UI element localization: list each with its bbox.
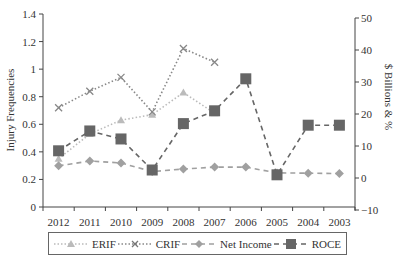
axes: 00.20.40.60.811.21.4−1001020304050201220… <box>22 8 378 228</box>
x-tick-label: 2009 <box>141 216 164 228</box>
data-point-marker <box>53 145 64 156</box>
legend-item-crif: CRIF <box>118 238 180 250</box>
data-point-marker <box>118 74 125 81</box>
triangle-marker-icon <box>54 239 88 249</box>
x-marker-icon <box>118 239 152 249</box>
data-point-marker <box>210 163 219 172</box>
x-tick-label: 2006 <box>235 216 258 228</box>
data-point-marker <box>209 105 220 116</box>
y2-tick-label: 50 <box>361 12 373 24</box>
chart: 00.20.40.60.811.21.4−1001020304050201220… <box>0 0 397 232</box>
data-point-marker <box>241 163 250 172</box>
legend-label: ROCE <box>312 238 341 250</box>
y2-tick-label: −10 <box>361 204 379 216</box>
y-tick-label: 0.6 <box>22 118 36 130</box>
data-point-marker <box>335 169 344 178</box>
data-point-marker <box>86 88 93 95</box>
data-point-marker <box>147 165 158 176</box>
data-point-marker <box>179 165 188 174</box>
data-point-marker <box>240 73 251 84</box>
data-point-marker <box>117 116 125 123</box>
series-line-crif <box>59 48 215 111</box>
legend-item-erif: ERIF <box>54 238 116 250</box>
x-tick-label: 2011 <box>79 216 101 228</box>
series-layer <box>53 45 345 180</box>
legend: ERIF CRIF Net Income ROCE <box>48 232 347 255</box>
data-point-marker <box>117 158 126 167</box>
y-tick-label: 1.4 <box>22 8 36 20</box>
x-tick-label: 2005 <box>266 216 289 228</box>
y-tick-label: 0.2 <box>22 173 36 185</box>
data-point-marker <box>178 118 189 129</box>
y2-tick-label: 30 <box>361 76 373 88</box>
data-point-marker <box>116 133 127 144</box>
data-point-marker <box>303 120 314 131</box>
x-tick-label: 2010 <box>110 216 133 228</box>
legend-item-net-income: Net Income <box>182 238 272 250</box>
legend-label: Net Income <box>220 238 272 250</box>
data-point-marker <box>55 104 62 111</box>
y-tick-label: 0.8 <box>22 91 36 103</box>
square-marker-icon <box>274 238 308 250</box>
diamond-marker-icon <box>182 239 216 249</box>
data-point-marker <box>85 157 94 166</box>
data-point-marker <box>334 120 345 131</box>
data-point-marker <box>84 125 95 136</box>
y2-tick-label: 10 <box>361 140 373 152</box>
y2-tick-label: 0 <box>361 172 367 184</box>
series-line-erif <box>59 93 215 159</box>
y2-axis-title: $ Billions & % <box>383 64 395 130</box>
data-point-marker <box>179 89 187 96</box>
y-tick-label: 1 <box>31 63 37 75</box>
series-line-roce <box>59 79 340 175</box>
y2-tick-label: 40 <box>361 44 373 56</box>
data-point-marker <box>211 59 218 66</box>
legend-label: ERIF <box>92 238 116 250</box>
y-tick-label: 0 <box>31 201 37 213</box>
data-point-marker <box>272 169 283 180</box>
x-tick-label: 2003 <box>328 216 351 228</box>
y2-tick-label: 20 <box>361 108 373 120</box>
data-point-marker <box>54 161 63 170</box>
legend-item-roce: ROCE <box>274 238 341 250</box>
x-tick-label: 2004 <box>297 216 320 228</box>
y-tick-label: 1.2 <box>22 36 36 48</box>
data-point-marker <box>180 45 187 52</box>
y-axis-title: Injury Frequencies <box>4 69 16 152</box>
x-tick-label: 2007 <box>204 216 227 228</box>
series-line-net-income <box>59 161 340 173</box>
x-tick-label: 2012 <box>48 216 70 228</box>
data-point-marker <box>304 169 313 178</box>
x-tick-label: 2008 <box>172 216 195 228</box>
legend-label: CRIF <box>156 238 180 250</box>
y-tick-label: 0.4 <box>22 146 36 158</box>
